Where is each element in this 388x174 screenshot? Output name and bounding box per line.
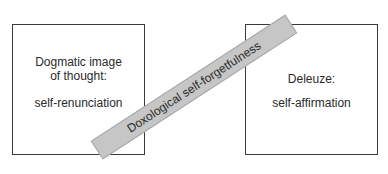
heading-line-2: of thought:	[13, 69, 144, 83]
doxological-band-label: Doxological self-forgetfulness	[124, 38, 263, 135]
dogmatic-image-heading: Dogmatic image of thought:	[13, 55, 144, 83]
self-affirmation-label: self-affirmation	[246, 96, 377, 110]
deleuze-heading: Deleuze:	[246, 72, 377, 86]
self-renunciation-label: self-renunciation	[13, 96, 144, 110]
heading-line-1: Dogmatic image	[13, 55, 144, 69]
